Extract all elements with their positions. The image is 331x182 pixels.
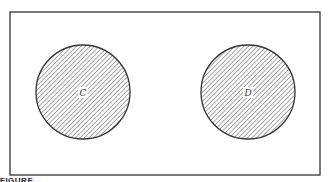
- figure-caption: FIGURE: [0, 176, 33, 182]
- set-d-label: D: [243, 88, 251, 98]
- venn-diagram: C D: [0, 0, 331, 182]
- set-c-label: C: [80, 88, 87, 98]
